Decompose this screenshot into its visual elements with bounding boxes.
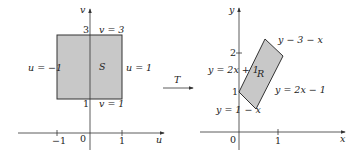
u-axis-label: u <box>156 134 162 145</box>
tick-label-v-3: 3 <box>83 24 89 35</box>
tick-label-y-1: 1 <box>232 86 238 97</box>
transform-arrow: T <box>163 74 193 88</box>
boundary-label-lower-right: y = 2x − 1 <box>274 84 326 95</box>
tick-label-v-1: 1 <box>83 98 89 109</box>
right-plot: y x 0 1 1 2 y = 2x + 1 y − 3 − x y = 2x … <box>200 4 346 150</box>
tick-label-y-2: 2 <box>230 47 236 58</box>
tick-label-u-neg1: −1 <box>52 135 66 146</box>
y-axis-label: y <box>228 4 235 15</box>
boundary-label-upper-right: y − 3 − x <box>277 34 323 45</box>
boundary-label-top: v = 3 <box>99 24 124 35</box>
boundary-label-upper-left: y = 2x + 1 <box>207 64 259 75</box>
region-label-s: S <box>99 61 106 72</box>
region-s <box>57 35 122 99</box>
v-axis-label: v <box>80 4 86 15</box>
boundary-label-left: u = −1 <box>28 62 62 73</box>
tick-label-u-1: 1 <box>119 135 125 146</box>
transform-label: T <box>174 74 181 85</box>
boundary-label-lower-left: y = 1 − x <box>215 104 261 115</box>
tick-label-x-1: 1 <box>275 135 281 146</box>
x-axis-label: x <box>340 133 346 144</box>
boundary-label-bottom: v = 1 <box>99 98 124 109</box>
tick-label-origin: 0 <box>230 134 236 145</box>
tick-label-origin: 0 <box>80 133 86 144</box>
region-label-r: R <box>256 68 264 79</box>
boundary-label-right: u = 1 <box>126 62 152 73</box>
left-plot: v u −1 0 1 1 3 v = 3 v = 1 u = −1 u = 1 … <box>18 4 164 150</box>
diagram-canvas: v u −1 0 1 1 3 v = 3 v = 1 u = −1 u = 1 … <box>0 0 364 156</box>
